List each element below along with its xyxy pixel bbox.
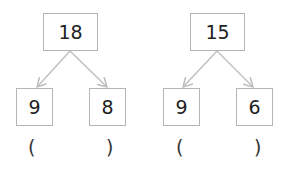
open-paren: ( [176,136,183,158]
left-number: 9 [175,96,187,118]
right-number-box: 6 [236,88,273,126]
top-number-box: 15 [190,13,245,51]
close-paren: ) [106,136,113,158]
right-number: 8 [101,96,113,118]
left-number-box: 9 [16,88,53,126]
top-number: 18 [58,21,82,43]
right-number-box: 8 [89,88,126,126]
open-paren: ( [28,136,35,158]
top-number-box: 18 [43,13,98,51]
top-number: 15 [205,21,229,43]
left-number: 9 [28,96,40,118]
close-paren: ) [254,136,261,158]
left-number-box: 9 [163,88,200,126]
right-number: 6 [248,96,260,118]
